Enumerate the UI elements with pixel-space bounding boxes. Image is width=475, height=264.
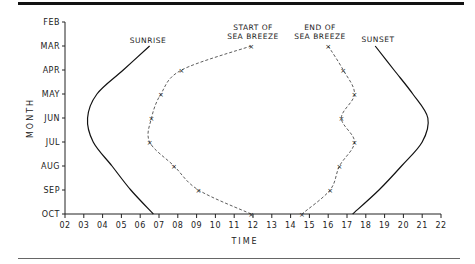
x-tick-label: 11 xyxy=(229,221,240,230)
end-of-sea-breeze-point: × xyxy=(327,187,333,195)
x-tick-label: 06 xyxy=(135,221,146,230)
start-of-sea-breeze-label: SEA BREEZE xyxy=(227,32,279,41)
y-tick-label: JUL xyxy=(45,138,60,147)
x-tick-label: 12 xyxy=(247,221,258,230)
x-tick-label: 08 xyxy=(172,221,183,230)
end-of-sea-breeze-point: × xyxy=(352,139,358,147)
x-tick-label: 18 xyxy=(360,221,371,230)
end-of-sea-breeze-label: SEA BREEZE xyxy=(294,32,346,41)
x-tick-label: 09 xyxy=(191,221,202,230)
axes: 0203040506070809101112131415161718192021… xyxy=(41,18,447,230)
start-of-sea-breeze-point: × xyxy=(158,91,164,99)
annotation-group: SUNRISESTART OFSEA BREEZEEND OFSEA BREEZ… xyxy=(130,23,395,45)
x-tick-label: 17 xyxy=(341,221,352,230)
sunrise-line xyxy=(87,46,153,214)
sunset-line xyxy=(353,46,429,214)
end-of-sea-breeze-point: × xyxy=(340,67,346,75)
start-of-sea-breeze-point: × xyxy=(149,115,155,123)
end-of-sea-breeze-point: × xyxy=(338,115,344,123)
sea-breeze-chart: 0203040506070809101112131415161718192021… xyxy=(0,0,475,264)
x-tick-label: 13 xyxy=(266,221,277,230)
x-tick-label: 22 xyxy=(435,221,446,230)
end-of-sea-breeze-point: × xyxy=(299,211,305,219)
y-tick-label: APR xyxy=(43,66,60,75)
x-tick-label: 04 xyxy=(97,221,108,230)
x-tick-label: 10 xyxy=(210,221,221,230)
end-of-sea-breeze-point: × xyxy=(352,91,358,99)
end-of-sea-breeze-point: × xyxy=(325,43,331,51)
x-tick-label: 19 xyxy=(379,221,390,230)
x-axis-title: TIME xyxy=(230,237,258,246)
y-tick-label: MAR xyxy=(41,42,60,51)
y-tick-label: FEB xyxy=(43,18,60,27)
end-of-sea-breeze-point: × xyxy=(337,163,343,171)
x-tick-label: 07 xyxy=(153,221,164,230)
x-tick-label: 02 xyxy=(59,221,70,230)
y-tick-label: SEP xyxy=(44,186,60,195)
x-tick-label: 03 xyxy=(78,221,89,230)
sunrise-label: SUNRISE xyxy=(130,36,166,45)
start-of-sea-breeze-point: × xyxy=(147,139,153,147)
y-axis-title: MONTH xyxy=(26,98,35,138)
y-tick-label: JUN xyxy=(43,114,60,123)
x-tick-label: 20 xyxy=(398,221,409,230)
start-of-sea-breeze-label: START OF xyxy=(233,23,273,32)
x-tick-label: 16 xyxy=(323,221,334,230)
y-tick-label: OCT xyxy=(42,210,60,219)
start-of-sea-breeze-point: × xyxy=(196,187,202,195)
series-group: ×××××××××××××××× xyxy=(87,43,428,219)
start-of-sea-breeze-point: × xyxy=(171,163,177,171)
y-tick-label: MAY xyxy=(42,90,60,99)
end-of-sea-breeze-label: END OF xyxy=(304,23,336,32)
y-tick-label: AUG xyxy=(41,162,60,171)
x-tick-label: 05 xyxy=(116,221,127,230)
start-of-sea-breeze-point: × xyxy=(179,67,185,75)
sunset-label: SUNSET xyxy=(362,35,395,44)
x-tick-label: 14 xyxy=(285,221,296,230)
start-of-sea-breeze-point: × xyxy=(248,43,254,51)
x-tick-label: 21 xyxy=(417,221,428,230)
start-of-sea-breeze-point: × xyxy=(248,211,254,219)
x-tick-label: 15 xyxy=(304,221,315,230)
